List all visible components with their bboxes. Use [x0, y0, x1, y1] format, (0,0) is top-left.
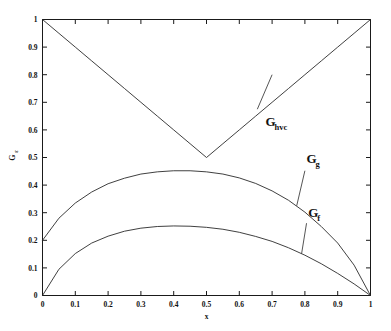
x-tick-label-8: 0.8 — [300, 300, 310, 309]
y-tick-label-10: 1 — [34, 15, 38, 24]
x-tick-label-4: 0.4 — [169, 300, 179, 309]
x-tick-label-7: 0.7 — [267, 300, 277, 309]
y-tick-label-6: 0.6 — [28, 126, 38, 135]
y-tick-label-3: 0.3 — [28, 209, 38, 218]
y-tick-label-1: 0.1 — [28, 264, 38, 273]
y-tick-label-7: 0.7 — [28, 98, 38, 107]
y-tick-label-5: 0.5 — [28, 153, 38, 162]
x-tick-label-2: 0.2 — [103, 300, 113, 309]
x-axis-title: x — [205, 312, 209, 321]
x-tick-label-9: 0.9 — [333, 300, 343, 309]
x-tick-label-3: 0.3 — [136, 300, 146, 309]
x-tick-label-10: 1 — [369, 300, 373, 309]
y-tick-label-9: 0.9 — [28, 43, 38, 52]
annotation-sub-G_hvc: hvc — [275, 122, 288, 132]
x-tick-label-5: 0.5 — [202, 300, 212, 309]
y-tick-label-4: 0.4 — [28, 181, 38, 190]
y-tick-label-0: 0 — [34, 291, 38, 300]
chart-plot: 00.10.20.30.40.50.60.70.80.91 00.10.20.3… — [0, 0, 391, 331]
annotation-sub-G_g: g — [316, 159, 321, 169]
chart-background — [0, 0, 391, 331]
x-tick-label-0: 0 — [41, 300, 45, 309]
x-tick-label-1: 0.1 — [71, 300, 81, 309]
annotation-sub-G_f: f — [317, 213, 320, 223]
x-tick-label-6: 0.6 — [235, 300, 245, 309]
y-axis-title-main: G — [8, 154, 17, 160]
y-tick-label-2: 0.2 — [28, 236, 38, 245]
figure-container: 00.10.20.30.40.50.60.70.80.91 00.10.20.3… — [0, 0, 391, 331]
y-tick-label-8: 0.8 — [28, 71, 38, 80]
